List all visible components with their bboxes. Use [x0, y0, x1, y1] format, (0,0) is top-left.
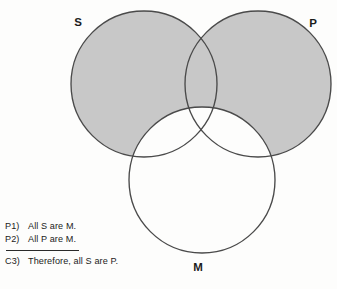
premise-tag-2: P2): [5, 233, 22, 246]
conclusion-text: Therefore, all S are P.: [28, 255, 118, 268]
premise-text-2: All P are M.: [28, 233, 76, 246]
premise-text-1: All S are M.: [28, 220, 76, 233]
set-label-s: S: [74, 16, 82, 28]
premise-row-2: P2) All P are M.: [5, 233, 170, 246]
set-label-p: P: [309, 17, 317, 29]
premise-tag-1: P1): [5, 220, 22, 233]
conclusion-row: C3) Therefore, all S are P.: [5, 255, 170, 268]
inference-divider: [6, 250, 79, 251]
premise-row-1: P1) All S are M.: [5, 220, 170, 233]
conclusion-tag: C3): [5, 255, 22, 268]
set-label-m: M: [193, 261, 203, 273]
syllogism-argument: P1) All S are M. P2) All P are M. C3) Th…: [5, 220, 170, 268]
